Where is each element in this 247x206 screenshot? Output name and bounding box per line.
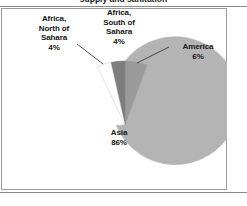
top-divider-rule — [0, 6, 247, 7]
pie-chart-figure: supply and sanitation Africa, North of S… — [0, 0, 247, 206]
slice-label-africa-south-of-sahara: Africa, South of Sahara 4% — [88, 8, 150, 46]
page-title: supply and sanitation — [0, 0, 247, 4]
bottom-divider-rule — [0, 192, 247, 193]
slice-label-america: America 6% — [168, 42, 228, 61]
slice-label-africa-north-of-sahara: Africa, North of Sahara 4% — [23, 14, 85, 52]
slice-label-asia: Asia 86% — [88, 128, 150, 147]
